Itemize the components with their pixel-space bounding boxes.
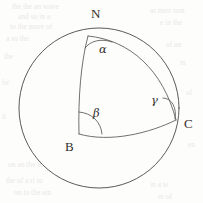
angle-marker-gamma (163, 98, 175, 119)
vertex-label-n: N (91, 7, 100, 20)
angle-label-beta: β (93, 108, 100, 120)
spherical-triangle-figure (0, 0, 203, 203)
vertex-label-c: C (184, 117, 193, 130)
figure-canvas: the the an waveand so in ato the more of… (0, 0, 203, 203)
vertex-label-b: B (65, 140, 74, 153)
great-circle-arc-b-to-c (79, 120, 176, 137)
great-circle-arc-north-to-b (79, 36, 88, 134)
angle-label-gamma: γ (151, 95, 158, 107)
angle-label-alpha: α (99, 44, 107, 56)
